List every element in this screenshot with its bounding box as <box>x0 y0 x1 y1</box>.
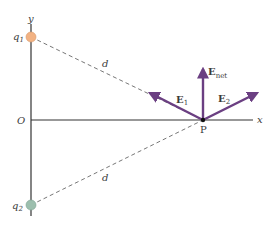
origin-label: O <box>17 115 25 126</box>
vector-enet-label: Enet <box>208 66 227 80</box>
charge-q2 <box>26 200 36 210</box>
y-axis-label: y <box>27 13 34 24</box>
distance-label-top: d <box>102 58 108 69</box>
vector-e2-label: E2 <box>218 93 230 106</box>
distance-line-q2-p <box>31 120 203 205</box>
q1-label: q1 <box>13 31 24 44</box>
x-axis-label: x <box>257 114 263 125</box>
q2-label: q2 <box>12 200 23 213</box>
point-p-label: P <box>200 124 207 135</box>
point-p-dot <box>201 118 205 122</box>
distance-label-bottom: d <box>102 172 108 183</box>
vector-e1-label: E1 <box>176 94 188 107</box>
electric-field-diagram: y x O q1 q2 d d P E1 E2 Enet <box>0 0 273 225</box>
charge-q1 <box>26 32 36 42</box>
